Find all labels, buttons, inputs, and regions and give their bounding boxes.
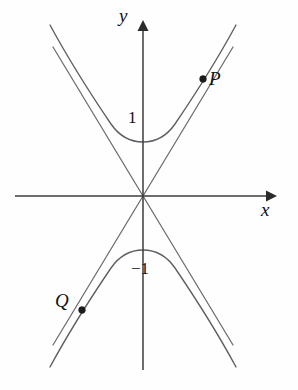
y-tick-negative-one-label: −1 <box>131 260 149 277</box>
y-axis-label: y <box>119 6 127 25</box>
x-axis-label: x <box>261 200 269 219</box>
point-P-dot[interactable] <box>200 76 207 83</box>
y-tick-positive-one-label: 1 <box>128 109 137 126</box>
hyperbola-diagram-canvas <box>0 0 298 390</box>
point-Q-dot[interactable] <box>79 307 86 314</box>
point-P-label: P <box>209 69 221 88</box>
point-Q-label: Q <box>55 291 69 310</box>
y-axis-arrow-up-icon <box>138 20 149 31</box>
axis-group <box>15 20 277 370</box>
hyperbola-figure-container: y x P Q 1 −1 <box>0 0 298 390</box>
